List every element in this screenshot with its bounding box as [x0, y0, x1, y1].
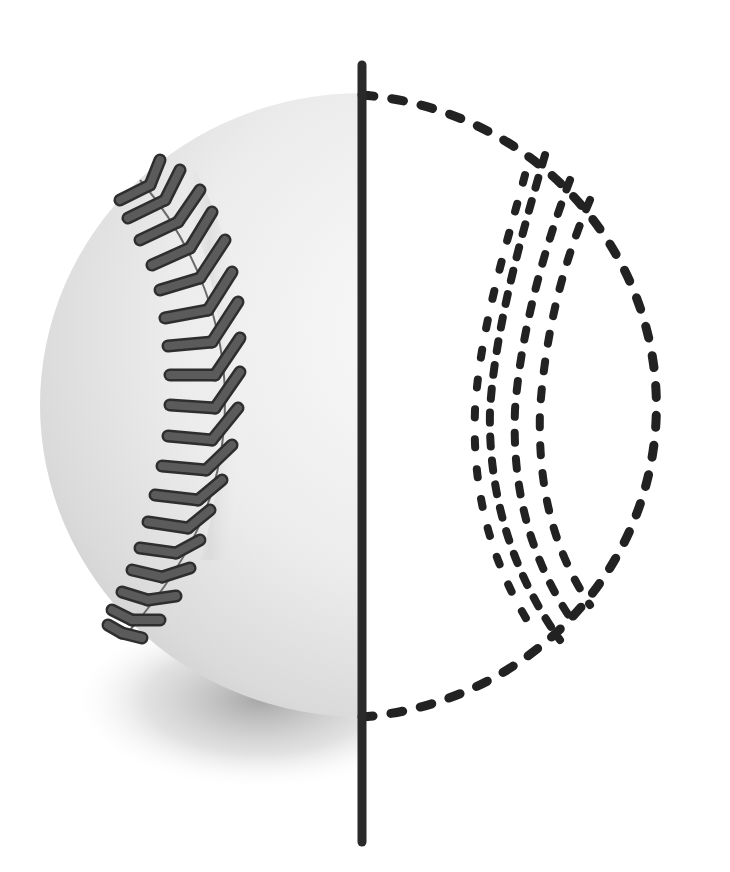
ball-right-outline	[362, 95, 656, 717]
baseball-illustration: baseball half-rendered, half-outlined	[0, 0, 730, 872]
baseball-svg	[0, 0, 730, 872]
stitches-right	[475, 155, 590, 640]
